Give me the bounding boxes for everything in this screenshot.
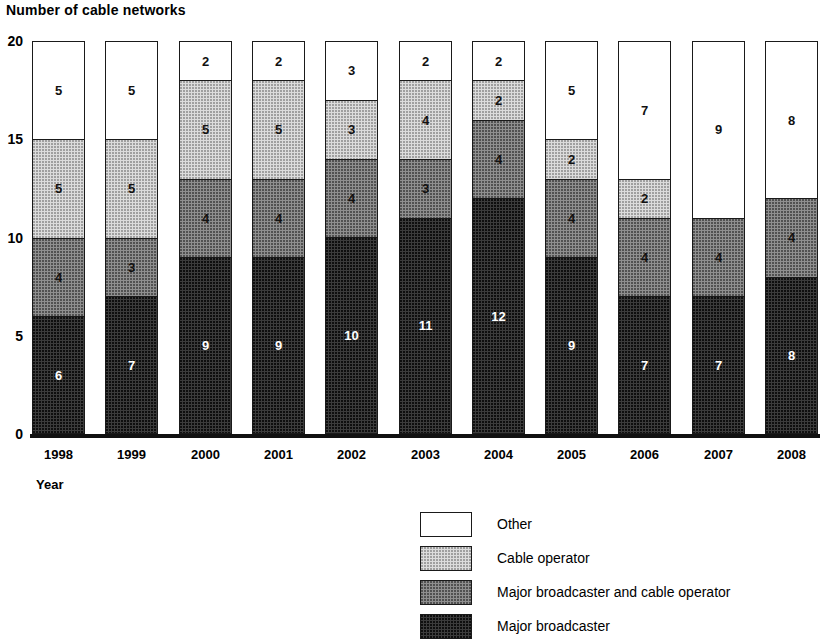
bar-segment-value: 7	[641, 104, 648, 117]
bar-segment[interactable]: 2	[399, 41, 452, 80]
bar-segment[interactable]: 7	[105, 296, 158, 434]
bar-segment-value: 4	[348, 192, 355, 205]
bar-segment-value: 7	[715, 359, 722, 372]
bar-segment[interactable]: 5	[32, 139, 85, 237]
bar-segment-value: 4	[641, 251, 648, 264]
bar-segment[interactable]: 2	[252, 41, 305, 80]
legend-label-major_and_cable: Major broadcaster and cable operator	[497, 584, 730, 600]
bar-segment-value: 10	[344, 329, 358, 342]
bar-segment-value: 4	[422, 114, 429, 127]
bar-segment[interactable]: 4	[692, 218, 745, 297]
bar-2004[interactable]: 22412	[472, 41, 525, 434]
bar-segment[interactable]: 5	[105, 139, 158, 237]
bar-segment[interactable]: 2	[472, 80, 525, 119]
x-axis-tick-label: 2000	[179, 447, 232, 462]
x-axis-tick-label: 2007	[692, 447, 745, 462]
legend-swatch-cable_operator	[420, 546, 472, 571]
bar-segment[interactable]: 2	[545, 139, 598, 178]
bar-segment[interactable]: 11	[399, 218, 452, 434]
bar-segment-value: 5	[202, 123, 209, 136]
bar-segment[interactable]: 4	[472, 120, 525, 199]
x-axis-tick-label: 2005	[545, 447, 598, 462]
bar-segment-value: 5	[128, 182, 135, 195]
bar-segment-value: 9	[275, 339, 282, 352]
chart-legend: OtherCable operatorMajor broadcaster and…	[420, 507, 730, 642]
bar-segment[interactable]: 5	[105, 41, 158, 139]
bar-segment[interactable]: 4	[399, 80, 452, 159]
bar-segment[interactable]: 4	[32, 238, 85, 317]
bar-segment[interactable]: 8	[765, 41, 818, 198]
bar-segment-value: 9	[715, 123, 722, 136]
bar-segment[interactable]: 4	[252, 179, 305, 258]
bar-segment-value: 2	[202, 55, 209, 68]
bar-segment[interactable]: 10	[325, 237, 378, 434]
bar-segment-value: 4	[788, 231, 795, 244]
bar-segment[interactable]: 8	[765, 277, 818, 434]
bar-segment[interactable]: 7	[692, 296, 745, 434]
x-axis-tick-label: 2008	[765, 447, 818, 462]
bar-segment[interactable]: 4	[179, 179, 232, 258]
bar-segment[interactable]: 3	[325, 41, 378, 100]
bar-2000[interactable]: 2549	[179, 41, 232, 434]
bar-segment[interactable]: 4	[618, 218, 671, 297]
bar-2008[interactable]: 848	[765, 41, 818, 434]
bar-segment[interactable]: 5	[252, 80, 305, 178]
bar-segment-value: 4	[55, 271, 62, 284]
legend-item-major_and_cable[interactable]: Major broadcaster and cable operator	[420, 575, 730, 609]
bar-segment-value: 2	[568, 153, 575, 166]
bar-segment[interactable]: 9	[692, 41, 745, 218]
bar-segment-value: 4	[275, 212, 282, 225]
bar-segment[interactable]: 7	[618, 41, 671, 179]
x-axis-tick-label: 2004	[472, 447, 525, 462]
page-title: Number of cable networks	[6, 2, 186, 18]
bar-2002[interactable]: 33410	[325, 41, 378, 434]
bar-segment[interactable]: 3	[105, 238, 158, 297]
x-axis-tick-label: 1999	[105, 447, 158, 462]
bar-segment[interactable]: 6	[32, 316, 85, 434]
bar-2007[interactable]: 947	[692, 41, 745, 434]
plot-area: 05101520 5546553725492549334102431122412…	[32, 41, 818, 434]
bar-segment[interactable]: 2	[179, 41, 232, 80]
bar-segment[interactable]: 2	[472, 41, 525, 80]
bar-segment[interactable]: 5	[545, 41, 598, 139]
legend-item-major_broadcaster[interactable]: Major broadcaster	[420, 609, 730, 642]
bar-2006[interactable]: 7247	[618, 41, 671, 434]
bar-segment[interactable]: 4	[765, 198, 818, 277]
bar-1998[interactable]: 5546	[32, 41, 85, 434]
bar-segment-value: 12	[491, 310, 505, 323]
bar-segment[interactable]: 9	[545, 257, 598, 434]
legend-item-cable_operator[interactable]: Cable operator	[420, 541, 730, 575]
bar-segment-value: 5	[55, 84, 62, 97]
bar-segment-value: 3	[348, 123, 355, 136]
bar-segment-value: 6	[55, 369, 62, 382]
bar-segment[interactable]: 5	[32, 41, 85, 139]
bar-segment-value: 9	[202, 339, 209, 352]
x-axis-tick-label: 2001	[252, 447, 305, 462]
bar-segment[interactable]: 7	[618, 296, 671, 434]
bar-segment[interactable]: 9	[179, 257, 232, 434]
bar-segment[interactable]: 2	[618, 179, 671, 218]
x-axis-tick-label: 2002	[325, 447, 378, 462]
bar-2001[interactable]: 2549	[252, 41, 305, 434]
x-axis-tick-label: 1998	[32, 447, 85, 462]
bar-segment-value: 5	[568, 84, 575, 97]
bar-segment[interactable]: 4	[325, 159, 378, 238]
legend-label-cable_operator: Cable operator	[497, 550, 590, 566]
legend-label-other: Other	[497, 516, 532, 532]
bar-1999[interactable]: 5537	[105, 41, 158, 434]
bar-segment-value: 2	[641, 192, 648, 205]
bar-segment[interactable]: 5	[179, 80, 232, 178]
bar-segment[interactable]: 9	[252, 257, 305, 434]
legend-item-other[interactable]: Other	[420, 507, 730, 541]
legend-swatch-major_broadcaster	[420, 614, 472, 639]
bar-segment-value: 4	[568, 212, 575, 225]
bar-2003[interactable]: 24311	[399, 41, 452, 434]
bar-2005[interactable]: 5249	[545, 41, 598, 434]
bar-segment[interactable]: 4	[545, 179, 598, 258]
x-axis-title: Year	[36, 477, 63, 492]
bar-segment[interactable]: 12	[472, 198, 525, 434]
bar-segment[interactable]: 3	[325, 100, 378, 159]
bar-segment-value: 2	[495, 94, 502, 107]
bar-segment-value: 11	[419, 319, 433, 332]
bar-segment[interactable]: 3	[399, 159, 452, 218]
